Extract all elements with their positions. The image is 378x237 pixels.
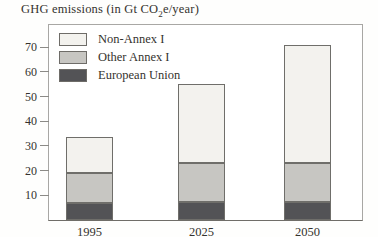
legend: Non-Annex IOther Annex IEuropean Union — [59, 33, 180, 87]
y-axis-tick — [40, 121, 49, 122]
bar-segment-european-union — [284, 202, 331, 221]
y-axis-tick-label: 40 — [5, 115, 37, 127]
y-axis-tick-label: 20 — [5, 165, 37, 177]
bar-2050 — [284, 45, 331, 220]
ghg-emissions-chart: GHG emissions (in Gt CO2e/year) 10203040… — [0, 0, 378, 237]
x-axis-label: 2050 — [276, 225, 340, 237]
bar-segment-other-annex-i — [178, 163, 225, 201]
y-axis-tick-label: 50 — [5, 91, 37, 103]
y-axis-tick — [40, 71, 49, 72]
bar-1995 — [66, 137, 113, 220]
y-axis-tick — [40, 145, 49, 146]
y-axis-tick-label: 70 — [5, 41, 37, 53]
legend-label: Other Annex I — [98, 51, 170, 64]
bar-segment-other-annex-i — [66, 173, 113, 203]
bar-segment-non-annex-i — [284, 45, 331, 164]
plot-area: 10203040506070 Non-Annex IOther Annex IE… — [48, 24, 363, 221]
x-axis-label: 2025 — [170, 225, 234, 237]
bar-segment-european-union — [66, 203, 113, 220]
chart-title-text-end: e/year) — [163, 2, 199, 16]
legend-swatch-european-union — [59, 69, 87, 82]
y-axis-tick — [40, 47, 49, 48]
legend-item: European Union — [59, 69, 180, 82]
y-axis-tick — [40, 170, 49, 171]
chart-title-text: GHG emissions (in Gt CO — [21, 2, 158, 16]
legend-swatch-other-annex-i — [59, 51, 87, 64]
legend-item: Other Annex I — [59, 51, 180, 64]
legend-item: Non-Annex I — [59, 33, 180, 46]
y-axis-tick — [40, 96, 49, 97]
y-axis-tick-label: 30 — [5, 140, 37, 152]
y-axis-tick-label: 60 — [5, 66, 37, 78]
bar-2025 — [178, 84, 225, 220]
y-axis-tick-label: 10 — [5, 189, 37, 201]
legend-label: Non-Annex I — [98, 33, 164, 46]
legend-swatch-non-annex-i — [59, 33, 87, 46]
y-axis-tick — [40, 195, 49, 196]
x-axis-label: 1995 — [58, 225, 122, 237]
bar-segment-non-annex-i — [66, 137, 113, 173]
legend-label: European Union — [98, 69, 180, 82]
bar-segment-other-annex-i — [284, 163, 331, 201]
chart-title: GHG emissions (in Gt CO2e/year) — [21, 2, 199, 19]
bar-segment-non-annex-i — [178, 84, 225, 163]
bar-segment-european-union — [178, 202, 225, 221]
